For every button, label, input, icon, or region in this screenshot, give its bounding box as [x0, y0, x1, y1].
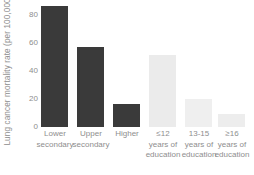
x-axis-labels: Lower secondary Upper secondary Higher ≤… — [38, 129, 254, 175]
x-label-line: secondary — [69, 140, 113, 151]
y-tick-40: 40 — [14, 67, 38, 75]
y-tick-80: 80 — [14, 11, 38, 19]
bar-higher — [113, 104, 140, 127]
x-label-line: education — [210, 150, 254, 161]
y-tick-60: 60 — [14, 39, 38, 47]
bar-gte-16-years-education — [218, 114, 245, 127]
bar-upper-secondary — [77, 47, 104, 127]
x-label-line: ≥16 — [210, 129, 254, 140]
bar-lte-12-years-education — [149, 55, 176, 127]
plot-area — [38, 0, 254, 127]
lung-cancer-mortality-bar-chart: Lung cancer mortality rate (per 100,000)… — [0, 0, 254, 175]
y-tick-20: 20 — [14, 95, 38, 103]
bar-13-15-years-education — [185, 99, 212, 127]
x-label-line: years of — [210, 140, 254, 151]
y-axis-tick-labels: 80 60 40 20 0 — [8, 0, 38, 140]
bar-lower-secondary — [41, 6, 68, 127]
x-label-gte-16-years-education: ≥16 years of education — [210, 129, 254, 161]
